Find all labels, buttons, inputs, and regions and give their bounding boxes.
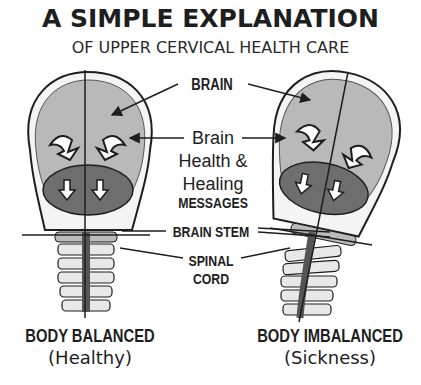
balanced-subcaption: (Healthy) (10, 347, 170, 368)
spinal-cord-line-1: SPINAL (181, 252, 240, 270)
imbalanced-subcaption: (Sickness) (240, 347, 420, 368)
messages-line-3: Healing (168, 173, 258, 196)
imbalanced-caption: BODY IMBALANCED (256, 326, 404, 347)
balanced-caption: BODY BALANCED (24, 326, 155, 347)
imbalanced-caption-block: BODY IMBALANCED (Sickness) (240, 326, 420, 368)
brain-stem-label: BRAIN STEM (165, 223, 257, 240)
spinal-cord-line-2: CORD (181, 270, 240, 288)
messages-line-1: Brain (168, 127, 258, 150)
messages-label-bold: MESSAGES (176, 194, 250, 211)
brain-label: BRAIN (179, 76, 245, 94)
spinal-cord-label: SPINAL CORD (181, 252, 240, 288)
balanced-caption-block: BODY BALANCED (Healthy) (10, 326, 170, 368)
messages-label: Brain Health & Healing (168, 127, 258, 196)
balanced-head (22, 70, 152, 318)
messages-line-2: Health & (168, 150, 258, 173)
